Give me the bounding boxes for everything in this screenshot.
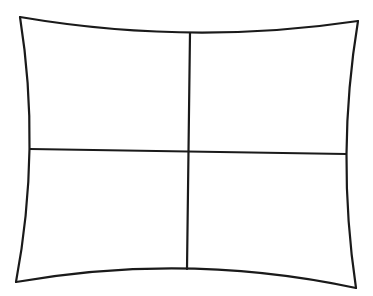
pincushion-grid-diagram (0, 0, 373, 296)
left-edge (16, 17, 30, 282)
bottom-edge (16, 268, 356, 288)
top-edge (20, 17, 358, 33)
right-edge (346, 21, 358, 288)
